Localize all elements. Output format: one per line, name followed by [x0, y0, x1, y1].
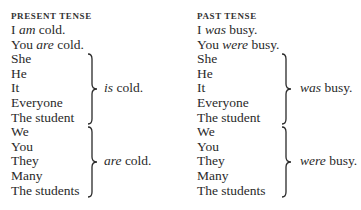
- verb: were: [222, 37, 248, 52]
- subject: Many: [11, 169, 92, 184]
- predicate: busy.: [248, 37, 279, 52]
- present-plural-group: We You They Many The students are cold.: [11, 125, 92, 198]
- right-brace-icon: [281, 53, 293, 125]
- predicate: cold.: [35, 22, 65, 37]
- present-plural-predicate: are cold.: [104, 154, 152, 169]
- subject: The student: [197, 111, 279, 126]
- subject: You: [197, 37, 222, 52]
- right-brace-icon: [87, 126, 99, 198]
- predicate: cold.: [54, 37, 84, 52]
- right-brace-icon: [281, 126, 293, 198]
- subject: The students: [197, 184, 279, 199]
- subject: Everyone: [11, 96, 92, 111]
- past-plural-predicate: were busy.: [300, 154, 357, 169]
- past-singular-group: She He It Everyone The student was busy.: [197, 52, 279, 125]
- present-line-i: I am cold.: [11, 23, 92, 38]
- verb: was: [300, 80, 321, 95]
- subject: It: [197, 81, 279, 96]
- present-tense-column: PRESENT TENSE I am cold. You are cold. S…: [11, 10, 92, 198]
- subject: She: [11, 52, 92, 67]
- predicate: busy.: [321, 80, 352, 95]
- predicate: cold.: [122, 153, 152, 168]
- predicate: cold.: [113, 80, 143, 95]
- predicate: busy.: [226, 22, 257, 37]
- subject: Many: [197, 169, 279, 184]
- subject: The students: [11, 184, 92, 199]
- subject: You: [11, 37, 36, 52]
- verb: were: [300, 153, 326, 168]
- present-singular-group: She He It Everyone The student is cold.: [11, 52, 92, 125]
- verb: are: [104, 153, 122, 168]
- subject: We: [197, 125, 279, 140]
- subject: He: [197, 67, 279, 82]
- subject: The student: [11, 111, 92, 126]
- verb: was: [205, 22, 226, 37]
- verb: is: [104, 80, 113, 95]
- verb: am: [19, 22, 36, 37]
- predicate: busy.: [326, 153, 357, 168]
- subject: It: [11, 81, 92, 96]
- subject: I: [11, 22, 19, 37]
- verb: are: [36, 37, 54, 52]
- past-singular-predicate: was busy.: [300, 81, 352, 96]
- past-line-i: I was busy.: [197, 23, 279, 38]
- present-line-you: You are cold.: [11, 38, 92, 53]
- subject: We: [11, 125, 92, 140]
- subject: Everyone: [197, 96, 279, 111]
- past-line-you: You were busy.: [197, 38, 279, 53]
- subject: You: [197, 140, 279, 155]
- present-singular-predicate: is cold.: [104, 81, 143, 96]
- subject: He: [11, 67, 92, 82]
- right-brace-icon: [87, 53, 99, 125]
- subject: She: [197, 52, 279, 67]
- past-plural-group: We You They Many The students were busy.: [197, 125, 279, 198]
- subject: I: [197, 22, 205, 37]
- past-tense-column: PAST TENSE I was busy. You were busy. Sh…: [197, 10, 279, 198]
- subject: They: [197, 154, 279, 169]
- subject: They: [11, 154, 92, 169]
- subject: You: [11, 140, 92, 155]
